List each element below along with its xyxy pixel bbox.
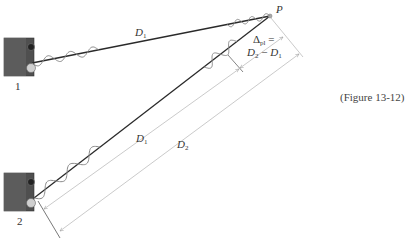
dim-d1-label: D1 [135,132,148,146]
delta-label-line1: Δpl = [253,33,275,47]
extension-line-speaker2 [38,201,60,238]
delta-label-line2: D2 − D1 [246,46,282,60]
speaker-2 [4,173,36,211]
speaker-1 [4,38,36,76]
extension-line-mid [228,55,243,72]
dim-d2-label: D2 [176,138,189,152]
waves [32,14,270,199]
wave-speaker2-mid [204,40,237,68]
interference-diagram: P 1 2 D1 D1 D2 Δpl = D2 − D1 [0,0,410,241]
wave-speaker1-near [32,47,99,66]
speaker-2-label: 2 [17,215,23,227]
point-p-label: P [275,3,283,15]
path-d2 [34,16,270,198]
speaker-1-label: 1 [15,80,21,92]
figure-caption: (Figure 13-12) [340,91,404,103]
path1-label: D1 [134,26,147,40]
